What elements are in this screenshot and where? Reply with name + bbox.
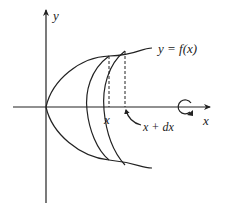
section-arc-x-plus-dx: [104, 51, 125, 165]
pointer-arrow-x-plus-dx: [126, 110, 141, 125]
rotation-arrow-icon: [178, 100, 193, 116]
curve-upper-branch: [46, 48, 152, 107]
x-axis-label: x: [202, 113, 209, 128]
x-plus-dx-label: x + dx: [142, 120, 174, 134]
revolution-diagram: y x y = f(x) x x + dx: [0, 0, 227, 218]
section-arc-x: [87, 56, 109, 160]
y-axis-label: y: [51, 8, 59, 23]
x-point-label: x: [103, 112, 110, 127]
curve-label: y = f(x): [156, 41, 197, 56]
curve-lower-branch: [46, 107, 152, 168]
